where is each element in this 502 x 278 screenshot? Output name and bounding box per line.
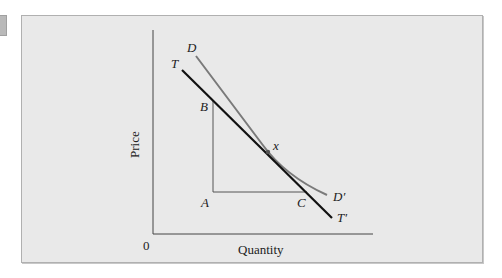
label-d: D	[186, 40, 197, 55]
x-axis-label: Quantity	[238, 242, 284, 257]
label-t: T	[171, 56, 179, 71]
y-axis-label: Price	[127, 131, 142, 158]
label-x: x	[272, 138, 279, 153]
label-d-prime: D′	[332, 189, 345, 204]
demand-elasticity-diagram: D T B x A C D′ T′ 0 Quantity Price	[0, 0, 502, 278]
origin-label: 0	[143, 238, 150, 253]
label-a: A	[200, 195, 209, 210]
tangency-point	[266, 150, 270, 154]
label-c: C	[297, 195, 306, 210]
label-b: B	[200, 99, 208, 114]
demand-curve	[196, 56, 327, 195]
label-t-prime: T′	[337, 210, 347, 225]
